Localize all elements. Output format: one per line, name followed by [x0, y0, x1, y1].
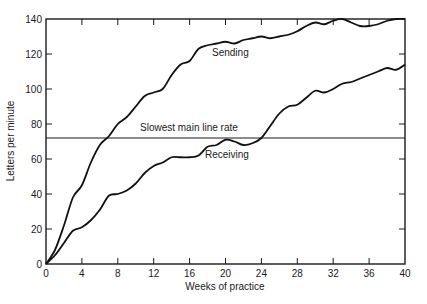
- x-tick-label: 36: [364, 268, 376, 279]
- x-tick-label: 24: [256, 268, 268, 279]
- label-reference-line: Slowest main line rate: [140, 122, 238, 133]
- y-tick-label: 20: [31, 224, 43, 235]
- label-sending: Sending: [212, 47, 249, 58]
- y-tick-label: 80: [31, 119, 43, 130]
- y-tick-label: 140: [25, 14, 42, 25]
- x-tick-label: 40: [399, 268, 411, 279]
- x-tick-label: 4: [79, 268, 85, 279]
- series-receiving: [46, 65, 405, 265]
- x-tick-label: 32: [328, 268, 340, 279]
- x-tick-label: 28: [292, 268, 304, 279]
- label-receiving: Receiving: [205, 149, 249, 160]
- y-tick-label: 40: [31, 189, 43, 200]
- line-chart: 0481216202428323640020406080100120140 We…: [0, 0, 427, 304]
- y-tick-label: 100: [25, 84, 42, 95]
- y-tick-label: 0: [36, 259, 42, 270]
- x-tick-label: 16: [184, 268, 196, 279]
- y-tick-label: 120: [25, 49, 42, 60]
- y-axis-title: Letters per minute: [5, 100, 16, 181]
- x-tick-label: 20: [220, 268, 232, 279]
- x-tick-label: 12: [148, 268, 160, 279]
- x-tick-label: 0: [43, 268, 49, 279]
- y-tick-label: 60: [31, 154, 43, 165]
- x-tick-label: 8: [115, 268, 121, 279]
- x-axis-title: Weeks of practice: [185, 281, 265, 292]
